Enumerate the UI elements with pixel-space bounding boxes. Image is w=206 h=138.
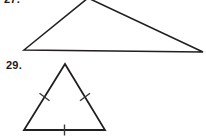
figure-page: 27. 29. bbox=[0, 0, 206, 138]
geometry-figure-canvas bbox=[0, 0, 206, 138]
figure-number-label-29: 29. bbox=[6, 60, 22, 71]
figure-number-label-27: 27. bbox=[4, 0, 20, 5]
